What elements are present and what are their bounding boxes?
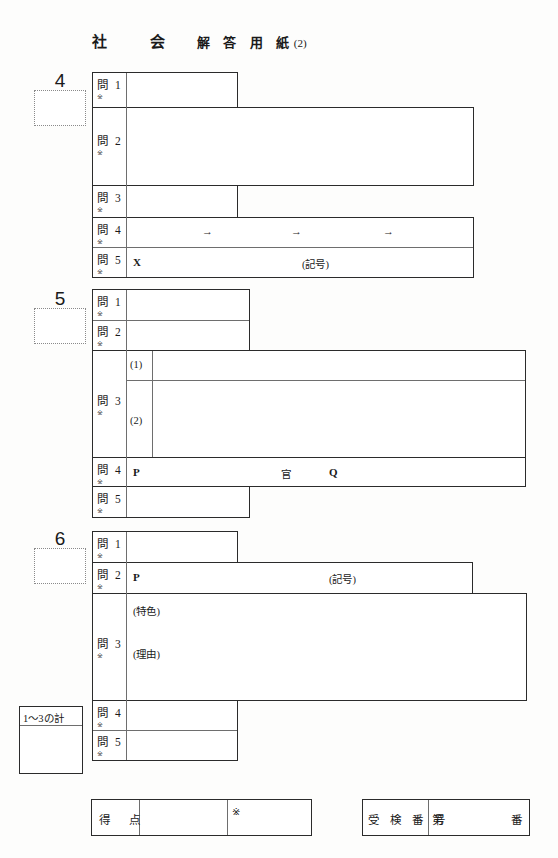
- s5-q2-mark: ※: [97, 339, 128, 349]
- s4-q1-label: 問 1 ※: [94, 74, 128, 108]
- answer-sheet: 社 会解 答 用 紙(2) 4 問 1 ※ 問 2 ※ 問 3 ※ 問 4 ※ …: [0, 0, 558, 858]
- s6-q3-label: 問 3 ※: [94, 633, 128, 673]
- s5-q4-mark: ※: [97, 477, 128, 487]
- s6-q3-note-feature: (特色): [133, 603, 160, 618]
- s5-q3-mark: ※: [97, 408, 128, 418]
- s6-q3-mark: ※: [97, 651, 128, 661]
- s4-q2-mark: ※: [97, 148, 128, 158]
- s4-q1-answer-area[interactable]: [127, 73, 237, 107]
- s4-q5-label: 問 5 ※: [94, 249, 128, 278]
- s5-q5-text: 問 5: [97, 488, 128, 506]
- s6-q2-answer-area[interactable]: [127, 563, 472, 593]
- s5-q4-note-kan: 官: [281, 466, 291, 481]
- s5-q3-text: 問 3: [97, 390, 128, 408]
- s4-q2-answer-area[interactable]: [127, 108, 473, 185]
- s4-q3-mark: ※: [97, 205, 128, 215]
- s6-q1-mark: ※: [97, 551, 128, 561]
- subject-label: 社 会: [92, 34, 179, 50]
- s4-q2-text: 問 2: [97, 130, 128, 148]
- s6-q4-label: 問 4 ※: [94, 702, 128, 730]
- s5-q2-label: 問 2 ※: [94, 321, 128, 350]
- s5-q3-2-answer-area[interactable]: [153, 381, 525, 457]
- s4-q1-mark: ※: [97, 92, 128, 102]
- s4-q5-text: 問 5: [97, 249, 128, 267]
- s6-q4-mark: ※: [97, 720, 128, 730]
- s6-q1-label: 問 1 ※: [94, 533, 128, 562]
- subtotal-label: 1〜3の計: [23, 710, 64, 725]
- s6-q1-text: 問 1: [97, 533, 128, 551]
- score-mark: ※: [232, 806, 240, 817]
- s4-q3-label: 問 3 ※: [94, 187, 128, 219]
- s6-q5-answer-area[interactable]: [127, 731, 237, 760]
- s4-q5-note-x: X: [133, 256, 141, 268]
- s4-q4-label: 問 4 ※: [94, 219, 128, 248]
- section-number-5: 5: [34, 288, 86, 310]
- s5-q3-label: 問 3 ※: [94, 390, 128, 430]
- s5-q3-sub-2: (2): [130, 415, 142, 426]
- s5-q2-answer-area[interactable]: [127, 321, 249, 350]
- examinee-prefix: 第: [432, 811, 443, 827]
- s4-q4-arrow-2: →: [291, 225, 302, 237]
- s4-q4-arrow-1: →: [202, 225, 213, 237]
- s4-q4-arrow-3: →: [383, 225, 394, 237]
- s5-q1-answer-area[interactable]: [127, 290, 249, 320]
- s5-q1-text: 問 1: [97, 291, 128, 309]
- s4-q4-mark: ※: [97, 237, 128, 247]
- score-divider-2: [227, 800, 228, 835]
- s6-q4-answer-area[interactable]: [127, 701, 237, 730]
- s6-q5-text: 問 5: [97, 731, 128, 749]
- s5-q1-label: 問 1 ※: [94, 291, 128, 320]
- s6-q1-answer-area[interactable]: [127, 532, 237, 562]
- s6-q3-note-reason: (理由): [133, 646, 160, 661]
- s5-q5-mark: ※: [97, 506, 128, 516]
- s4-q5-answer-area[interactable]: [127, 248, 473, 277]
- subtotal-value-area[interactable]: [20, 726, 82, 773]
- s4-q3-text: 問 3: [97, 187, 128, 205]
- page-title: 社 会解 答 用 紙(2): [92, 30, 307, 51]
- s6-q4-text: 問 4: [97, 702, 128, 720]
- s4-left-edge: [92, 72, 93, 278]
- document-label: 解 答 用 紙: [197, 35, 294, 50]
- s4-q4-text: 問 4: [97, 219, 128, 237]
- s6-q3-answer-area[interactable]: [127, 594, 526, 700]
- s5-q4-note-q: Q: [329, 466, 338, 478]
- s6-q2-text: 問 2: [97, 564, 128, 582]
- paper-number: (2): [294, 37, 307, 49]
- s5-left-edge: [92, 289, 93, 518]
- s4-q5-mark: ※: [97, 267, 128, 277]
- s5-q4-label: 問 4 ※: [94, 459, 128, 487]
- s4-q2-label: 問 2 ※: [94, 130, 128, 164]
- section-score-box-4[interactable]: [34, 90, 86, 126]
- s5-q4-text: 問 4: [97, 459, 128, 477]
- s6-q2-label: 問 2 ※: [94, 564, 128, 593]
- s6-left-edge: [92, 531, 93, 761]
- section-number-4: 4: [34, 70, 86, 92]
- examinee-number-input[interactable]: [448, 800, 510, 835]
- s5-q5-label: 問 5 ※: [94, 488, 128, 517]
- s6-q5-mark: ※: [97, 749, 128, 759]
- s5-q4-note-p: P: [133, 466, 140, 478]
- s4-q3-answer-area[interactable]: [127, 186, 237, 217]
- s5-q4-answer-area[interactable]: [127, 458, 525, 487]
- section-number-6: 6: [34, 528, 86, 550]
- s6-q5-label: 問 5 ※: [94, 731, 128, 760]
- s6-q3-text: 問 3: [97, 633, 128, 651]
- examinee-suffix: 番: [511, 811, 522, 827]
- s5-q2-text: 問 2: [97, 321, 128, 339]
- s5-q5-answer-area[interactable]: [127, 487, 249, 517]
- s6-q2-note-kigou: (記号): [329, 571, 356, 586]
- s5-q1-mark: ※: [97, 309, 128, 319]
- s6-q2-note-p: P: [133, 571, 140, 583]
- s5-q3-sub-1: (1): [130, 359, 142, 370]
- score-value-area[interactable]: [140, 800, 226, 835]
- s4-q5-note-kigou: (記号): [302, 256, 329, 271]
- section-score-box-5[interactable]: [34, 308, 86, 344]
- s6-q2-mark: ※: [97, 582, 128, 592]
- s4-q1-text: 問 1: [97, 74, 128, 92]
- s5-q3-1-answer-area[interactable]: [153, 351, 525, 380]
- score-label: 得 点: [99, 811, 144, 827]
- section-score-box-6[interactable]: [34, 548, 86, 584]
